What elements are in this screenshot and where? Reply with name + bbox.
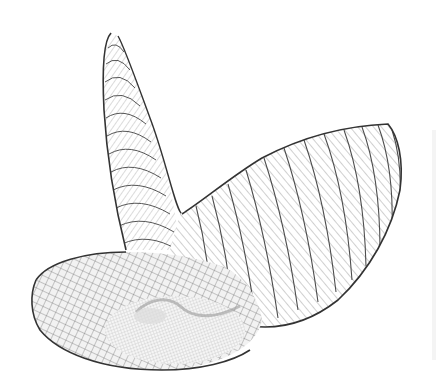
tall-lobe [90,30,190,260]
wireframe-surface-figure [0,0,440,392]
